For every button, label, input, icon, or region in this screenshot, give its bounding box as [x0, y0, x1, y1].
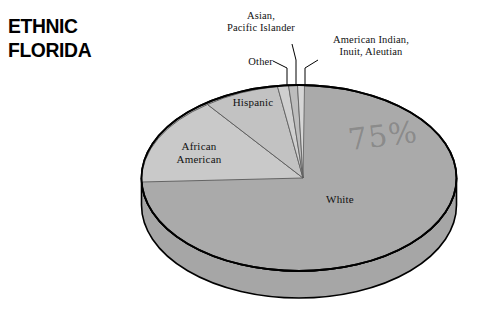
slice-label-white: White	[305, 193, 375, 206]
leader-line-other	[273, 61, 287, 86]
callout-label-asian-pacific-islander: Asian, Pacific Islander	[206, 10, 316, 35]
slice-label-hispanic: Hispanic	[222, 96, 284, 109]
callout-label-other: Other	[225, 56, 273, 68]
slice-label-african-american: African American	[160, 140, 238, 165]
leader-line-asian	[292, 44, 296, 86]
leader-line-american-indian	[305, 60, 318, 86]
callout-label-american-indian: American Indian, Inuit, Aleutian	[312, 34, 430, 59]
ethnic-florida-pie-chart-figure: ETHNIC FLORIDA White African American Hi…	[0, 0, 479, 320]
